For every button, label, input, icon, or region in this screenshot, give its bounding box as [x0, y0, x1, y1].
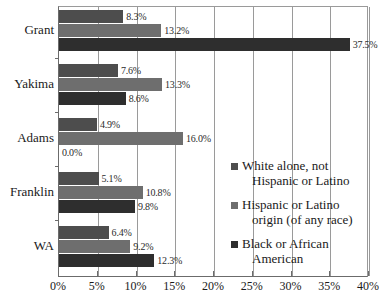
- bar-value-label: 13.2%: [164, 25, 189, 36]
- legend-item-2[interactable]: Black or AfricanAmerican: [231, 236, 363, 266]
- bar-row: 4.9%: [59, 118, 367, 131]
- x-tick: [97, 271, 98, 276]
- bar-row: 16.0%: [59, 132, 367, 145]
- bar[interactable]: [59, 92, 126, 105]
- legend-label-line2: Hispanic or Latino: [242, 173, 349, 188]
- bar-group-grant: 8.3%13.2%37.5%: [59, 10, 367, 52]
- bar-row: 13.2%: [59, 24, 367, 37]
- bar-row: 37.5%: [59, 38, 367, 51]
- bar[interactable]: [59, 186, 143, 199]
- bar[interactable]: [59, 10, 123, 23]
- category-label-wa: WA: [0, 238, 54, 254]
- legend-label-line1: Black or African: [242, 236, 329, 251]
- legend: White alone, notHispanic or LatinoHispan…: [231, 158, 363, 275]
- legend-swatch-icon: [231, 163, 238, 170]
- bar[interactable]: [59, 172, 99, 185]
- legend-label: Black or AfricanAmerican: [242, 236, 329, 266]
- bar-value-label: 0.0%: [62, 147, 82, 158]
- legend-item-1[interactable]: Hispanic or Latinoorigin (of any race): [231, 197, 363, 227]
- bar-value-label: 8.3%: [126, 11, 146, 22]
- bar[interactable]: [59, 226, 109, 239]
- bar[interactable]: [59, 38, 350, 51]
- legend-label: Hispanic or Latinoorigin (of any race): [242, 197, 353, 227]
- bar-value-label: 9.2%: [133, 241, 153, 252]
- x-tick: [136, 271, 137, 276]
- x-tick: [368, 271, 369, 276]
- legend-label-line2: origin (of any race): [242, 212, 353, 227]
- category-label-adams: Adams: [0, 130, 54, 146]
- category-label-franklin: Franklin: [0, 184, 54, 200]
- x-tick: [213, 271, 214, 276]
- bar-value-label: 8.6%: [129, 93, 149, 104]
- bar-value-label: 6.4%: [112, 227, 132, 238]
- x-tick-label-20%: 20%: [202, 279, 224, 294]
- bar-group-adams: 4.9%16.0%0.0%: [59, 118, 367, 160]
- bar[interactable]: [59, 200, 135, 213]
- x-tick-label-40%: 40%: [357, 279, 379, 294]
- category-tick: [55, 112, 59, 113]
- bar[interactable]: [59, 64, 118, 77]
- legend-label-line1: Hispanic or Latino: [242, 197, 353, 212]
- bar-value-label: 4.9%: [100, 119, 120, 130]
- category-label-grant: Grant: [0, 22, 54, 38]
- x-tick-label-25%: 25%: [241, 279, 263, 294]
- x-tick-label-0%: 0%: [50, 279, 66, 294]
- bar-row: 0.0%: [59, 146, 367, 159]
- category-tick: [55, 166, 59, 167]
- x-tick-label-30%: 30%: [280, 279, 302, 294]
- bar-value-label: 9.8%: [138, 201, 158, 212]
- x-tick-label-35%: 35%: [318, 279, 340, 294]
- bar[interactable]: [59, 118, 97, 131]
- bar-value-label: 10.8%: [146, 187, 171, 198]
- bar[interactable]: [59, 24, 161, 37]
- bar-row: 13.3%: [59, 78, 367, 91]
- category-label-yakima: Yakima: [0, 76, 54, 92]
- bar-value-label: 7.6%: [121, 65, 141, 76]
- bar[interactable]: [59, 240, 130, 253]
- bar-value-label: 5.1%: [102, 173, 122, 184]
- x-tick-label-10%: 10%: [125, 279, 147, 294]
- bar-row: 8.3%: [59, 10, 367, 23]
- x-tick: [174, 271, 175, 276]
- category-tick: [55, 220, 59, 221]
- category-tick: [55, 58, 59, 59]
- bar-row: 7.6%: [59, 64, 367, 77]
- bar-group-yakima: 7.6%13.3%8.6%: [59, 64, 367, 106]
- bar[interactable]: [59, 132, 183, 145]
- x-tick-label-15%: 15%: [163, 279, 185, 294]
- bar-value-label: 12.3%: [157, 255, 182, 266]
- x-tick: [58, 271, 59, 276]
- legend-swatch-icon: [231, 241, 238, 248]
- legend-label-line2: American: [242, 251, 329, 266]
- bar-value-label: 13.3%: [165, 79, 190, 90]
- legend-swatch-icon: [231, 202, 238, 209]
- bar-value-label: 16.0%: [186, 133, 211, 144]
- bar[interactable]: [59, 78, 162, 91]
- legend-label: White alone, notHispanic or Latino: [242, 158, 349, 188]
- bar-value-label: 37.5%: [353, 39, 378, 50]
- legend-item-0[interactable]: White alone, notHispanic or Latino: [231, 158, 363, 188]
- legend-label-line1: White alone, not: [242, 158, 349, 173]
- bar-row: 8.6%: [59, 92, 367, 105]
- bar[interactable]: [59, 254, 154, 267]
- horizontal-bar-chart: 8.3%13.2%37.5%7.6%13.3%8.6%4.9%16.0%0.0%…: [0, 0, 379, 306]
- x-tick-label-5%: 5%: [89, 279, 105, 294]
